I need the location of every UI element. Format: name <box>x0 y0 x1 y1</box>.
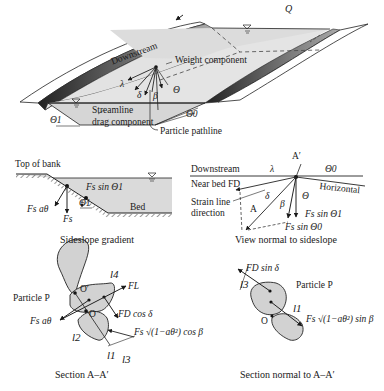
fs-sqrt-sin-beta-label: Fs √(1−aθ²) sin β <box>306 315 373 325</box>
lambda-label: λ <box>270 165 274 175</box>
section-aa-caption: Section A–A′ <box>55 370 109 380</box>
l1-label: l1 <box>293 303 302 314</box>
l3-label: l3 <box>240 279 249 290</box>
discharge-label: Q <box>285 4 292 14</box>
l4-label: l4 <box>110 269 119 280</box>
view-normal-caption: View normal to sideslope <box>235 235 337 245</box>
fs-sin-theta1-label: Fs sin Θ1 <box>86 183 123 193</box>
beta-label: β <box>280 200 285 210</box>
streamline-label: Streamline <box>92 106 133 116</box>
l1-label: l1 <box>107 350 116 361</box>
fs-label: Fs <box>63 215 73 225</box>
theta1-label: Θ1 <box>50 116 62 126</box>
fs-a-theta-label: Fs aθ <box>30 317 51 327</box>
theta1-label: Θ1 <box>79 199 91 209</box>
fs-sqrt-cos-beta-label: Fs √(1−aθ²) cos β <box>134 328 203 338</box>
beta-label: β <box>153 92 158 102</box>
near-bed-fd-label: Near bed FD <box>191 180 240 190</box>
o-label: O <box>261 317 268 327</box>
particle-p-label: Particle P <box>13 294 50 304</box>
particle-pathline-label: Particle pathline <box>160 127 222 137</box>
particle-p-label: Particle P <box>296 281 333 291</box>
a-prime-label: A′ <box>292 152 301 162</box>
fs-a-theta-label: Fs aθ <box>27 205 48 215</box>
bed-label: Bed <box>130 203 145 213</box>
top-of-bank-label: Top of bank <box>15 160 61 170</box>
theta0-label: Θ0 <box>325 165 337 175</box>
drag-component-label: drag component <box>92 118 153 128</box>
lambda-label: λ <box>120 80 124 90</box>
downstream-label: Downstream <box>191 165 240 175</box>
strain-direction-label: direction <box>191 209 225 219</box>
strain-line-label: Strain line <box>191 198 230 208</box>
fd-cos-delta-label: FD cos δ <box>118 310 153 320</box>
o-label: O <box>89 310 96 320</box>
theta-label: Θ <box>302 192 309 202</box>
l3-label: l3 <box>122 354 131 365</box>
theta-label: Θ <box>173 86 180 96</box>
delta-label: δ <box>265 192 269 202</box>
section-aa-figure <box>57 239 135 346</box>
weight-component-label: Weight component <box>175 56 247 66</box>
o-prime-label: O′ <box>80 285 89 295</box>
l2-label: l2 <box>72 332 81 343</box>
fl-label: FL <box>128 282 139 292</box>
a-label: A <box>250 205 257 215</box>
fd-sin-delta-label: FD sin δ <box>246 264 279 274</box>
theta0-label: Θ0 <box>186 110 198 120</box>
fs-sin-theta0-label: Fs sin Θ0 <box>285 223 322 233</box>
section-normal-caption: Section normal to A–A′ <box>240 370 335 380</box>
sideslope-gradient-caption: Sideslope gradient <box>60 235 134 245</box>
fs-sin-theta1-label: Fs sin Θ1 <box>305 210 342 220</box>
delta-label: δ <box>137 91 141 101</box>
